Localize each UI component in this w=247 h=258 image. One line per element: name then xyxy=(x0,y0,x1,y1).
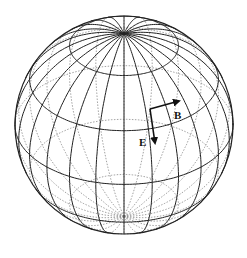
b-vector: B xyxy=(150,101,182,121)
e-label: E xyxy=(139,136,146,148)
b-label: B xyxy=(174,109,182,121)
e-arrow-icon xyxy=(150,109,155,143)
sphere-diagram: E B xyxy=(0,0,247,258)
